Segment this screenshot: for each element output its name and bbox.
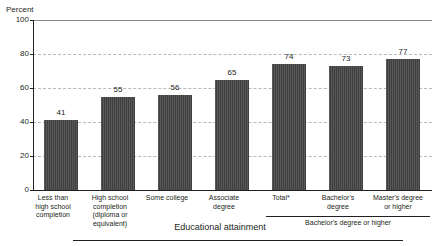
bar-value-label-4: 74 [269,53,309,61]
bar-value-label-6: 77 [383,48,423,56]
bar-value-label-3: 65 [212,69,252,77]
y-tick-label-20: 20 [0,152,29,160]
y-tick-label-100: 100 [0,16,29,24]
bar-value-label-2: 56 [155,84,195,92]
y-tick-label-40: 40 [0,118,29,126]
gridline-80 [33,54,432,55]
bar-value-label-1: 55 [98,86,138,94]
y-tick-label-0: 0 [0,186,29,194]
group-bracket-bachelors-or-higher [266,216,430,217]
bar-high-school-completion[interactable] [101,97,135,191]
bottom-rule [73,240,403,241]
bar-value-label-5: 73 [326,55,366,63]
x-axis-caption: Educational attainment [140,222,300,232]
y-axis-line [33,20,34,190]
x-axis-line [33,190,432,191]
bar-bachelors-degree[interactable] [329,66,363,190]
plot-area [33,20,432,190]
bar-associate-degree[interactable] [215,80,249,191]
gridline-100 [33,20,432,21]
x-tick-label-masters-degree-or-higher: Master's degreeor higher [358,194,438,211]
bar-masters-degree-or-higher[interactable] [386,59,420,190]
y-tick-label-60: 60 [0,84,29,92]
bar-chart: Percent 100 80 60 40 20 0 41 55 56 6 [0,0,440,246]
bar-less-than-high-school[interactable] [44,120,78,190]
y-tick-label-80: 80 [0,50,29,58]
bar-value-label-0: 41 [41,109,81,117]
bar-total[interactable] [272,64,306,190]
bar-some-college[interactable] [158,95,192,190]
